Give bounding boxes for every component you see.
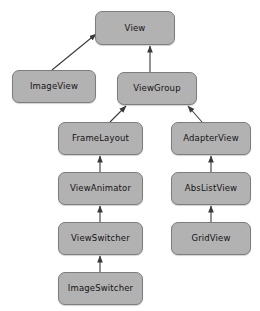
class-node-adapterview[interactable]: AdapterView	[171, 122, 251, 155]
inheritance-arrow-imageview-to-view	[52, 34, 96, 70]
class-node-viewanimator[interactable]: ViewAnimator	[58, 172, 143, 205]
edge-layer	[0, 0, 260, 311]
class-node-label: ViewGroup	[133, 84, 180, 93]
class-node-label: AdapterView	[183, 134, 239, 143]
class-node-label: AbsListView	[185, 184, 237, 193]
class-node-framelayout[interactable]: FrameLayout	[58, 122, 143, 155]
class-node-label: View	[125, 24, 146, 33]
class-node-label: ImageSwitcher	[68, 284, 133, 293]
class-node-gridview[interactable]: GridView	[171, 222, 251, 255]
class-node-view[interactable]: View	[95, 11, 175, 45]
class-node-imageswitcher[interactable]: ImageSwitcher	[58, 272, 143, 305]
class-node-viewswitcher[interactable]: ViewSwitcher	[58, 222, 143, 255]
class-node-viewgroup[interactable]: ViewGroup	[117, 72, 197, 105]
class-node-label: GridView	[191, 234, 230, 243]
class-node-label: FrameLayout	[72, 134, 129, 143]
inheritance-arrow-adapterview-to-viewgroup	[188, 106, 202, 122]
class-node-imageview[interactable]: ImageView	[12, 70, 96, 103]
class-node-label: ViewAnimator	[70, 184, 131, 193]
inheritance-arrow-framelayout-to-viewgroup	[110, 106, 126, 122]
class-node-label: ViewSwitcher	[71, 234, 130, 243]
class-hierarchy-diagram: ViewImageViewViewGroupFrameLayoutAdapter…	[0, 0, 260, 311]
class-node-abslistview[interactable]: AbsListView	[171, 172, 251, 205]
class-node-label: ImageView	[30, 82, 78, 91]
